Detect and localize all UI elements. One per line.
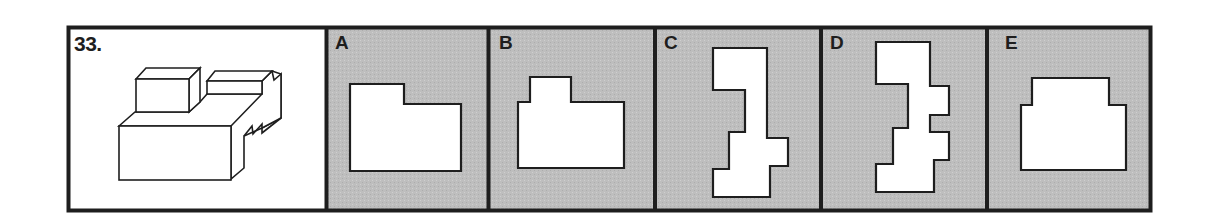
option-a-label[interactable]: A (335, 33, 349, 52)
option-d-label[interactable]: D (830, 33, 844, 52)
question-graphics (0, 0, 1216, 221)
question-strip: 33. A B C D E (0, 0, 1216, 221)
option-c-label[interactable]: C (664, 33, 678, 52)
option-b-label[interactable]: B (499, 33, 513, 52)
option-e-label[interactable]: E (1005, 33, 1018, 52)
question-number: 33. (74, 33, 102, 54)
